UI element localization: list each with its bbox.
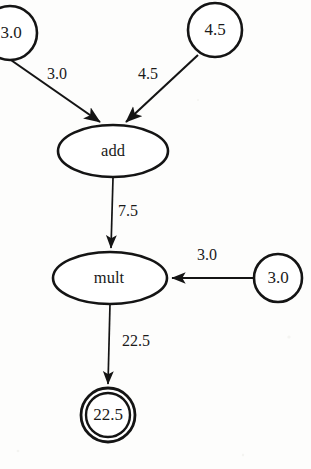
edge-mult-to-result: 22.5: [108, 304, 150, 384]
node-result-label: 22.5: [93, 405, 123, 424]
node-op-add[interactable]: add: [58, 125, 168, 177]
node-input-a-label: 3.0: [0, 23, 21, 42]
node-op-mult-label: mult: [94, 268, 125, 287]
edge-line-mult-result: [108, 304, 110, 384]
node-input-a[interactable]: 3.0: [0, 6, 37, 60]
diagram-canvas: 3.0 4.5 7.5 3.0 22.5 3.0: [0, 0, 311, 469]
edge-label-b-add: 4.5: [138, 65, 158, 82]
computational-graph-svg: 3.0 4.5 7.5 3.0 22.5 3.0: [0, 0, 311, 469]
edge-line-b-add: [126, 55, 198, 122]
edge-input-b-to-add: 4.5: [126, 55, 198, 122]
edge-add-to-mult: 7.5: [111, 178, 138, 248]
node-input-c-label: 3.0: [267, 268, 288, 287]
edge-input-c-to-mult: 3.0: [172, 246, 253, 278]
node-op-mult[interactable]: mult: [53, 252, 167, 304]
node-op-add-label: add: [101, 141, 126, 160]
edge-label-mult-result: 22.5: [122, 332, 150, 349]
edge-label-add-mult: 7.5: [118, 202, 138, 219]
node-input-c[interactable]: 3.0: [254, 254, 302, 302]
edge-input-a-to-add: 3.0: [8, 58, 100, 122]
edge-label-a-add: 3.0: [47, 65, 67, 82]
node-result[interactable]: 22.5: [81, 388, 135, 442]
edge-line-add-mult: [111, 178, 113, 248]
edge-label-c-mult: 3.0: [197, 246, 217, 263]
node-input-b-label: 4.5: [204, 20, 225, 39]
node-input-b[interactable]: 4.5: [188, 3, 242, 57]
